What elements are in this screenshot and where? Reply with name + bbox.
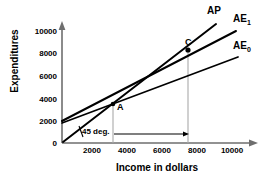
series-label-ae1: AE1	[233, 14, 251, 26]
point-marker-c	[185, 47, 190, 52]
point-label-a: A	[117, 103, 124, 112]
y-axis-arrowhead	[59, 21, 66, 30]
series-line-ap	[63, 24, 216, 142]
x-axis-title: Income in dollars	[72, 163, 242, 173]
y-tick-label-2000: 2000	[14, 118, 57, 126]
x-tick-label-2000: 2000	[78, 147, 106, 155]
angle-annotation-label: 45 deg.	[82, 128, 110, 136]
x-axis-arrowhead	[249, 140, 258, 147]
series-label-ae1-sub: 1	[247, 19, 251, 26]
expenditure-chart: 10000 8000 6000 4000 2000 0 2000 4000 60…	[0, 0, 270, 183]
series-line-ae1	[62, 31, 236, 121]
series-label-ae0: AE0	[233, 41, 251, 53]
series-label-ae1-text: AE	[233, 13, 247, 24]
series-label-ae0-sub: 0	[247, 46, 251, 53]
series-label-ap: AP	[207, 6, 221, 16]
series-label-ae0-text: AE	[233, 40, 247, 51]
x-tick-label-8000: 8000	[183, 147, 211, 155]
x-tick-label-4000: 4000	[113, 147, 141, 155]
point-marker-a	[111, 102, 116, 107]
x-tick-label-6000: 6000	[148, 147, 176, 155]
y-axis-title-wrapper: Expenditures	[4, 21, 22, 101]
x-tick-label-10000: 10000	[216, 147, 248, 155]
point-label-c: C	[185, 38, 192, 47]
series-line-ae0	[62, 57, 238, 123]
y-tick-label-0: 0	[14, 140, 57, 148]
y-axis-title: Expenditures	[9, 29, 20, 92]
